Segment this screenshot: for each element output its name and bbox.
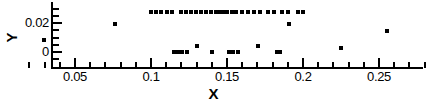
data-point [385,29,389,33]
data-point [234,10,238,14]
data-point [339,46,343,50]
data-point [210,50,214,54]
x-tick-minor [44,62,46,68]
data-point [252,10,256,14]
x-tick-major [226,58,228,68]
x-tick-minor [363,62,365,68]
y-tick-label: 0.02 [25,16,49,29]
x-tick-minor [165,62,167,68]
data-point [230,10,234,14]
x-tick-major [74,58,76,68]
data-point [179,10,183,14]
x-tick-minor [28,62,30,68]
data-point [227,50,231,54]
y-tick-label: 0 [42,45,49,58]
data-point [165,10,169,14]
y-tick-minor [53,58,59,60]
data-point [189,10,193,14]
y-tick-minor [53,29,59,31]
data-point [258,10,262,14]
data-point [185,50,189,54]
x-axis-title: X [0,86,427,101]
data-point [287,22,291,26]
data-point [180,50,184,54]
data-point [286,10,290,14]
x-tick-minor [348,62,350,68]
data-point [42,38,46,42]
data-point [194,10,198,14]
y-tick-minor [53,15,59,17]
scatter-chart: 00.02 Y X 0.050.10.150.20.25 [0,0,427,106]
data-point [154,10,158,14]
x-tick-minor [424,62,426,68]
data-point [296,10,300,14]
x-tick-label: 0.1 [142,70,159,83]
x-tick-minor [89,62,91,68]
x-tick-minor [196,62,198,68]
x-tick-major [302,58,304,68]
x-tick-minor [408,62,410,68]
x-tick-minor [180,62,182,68]
y-tick-major [53,51,62,53]
x-tick-minor [393,62,395,68]
x-tick-minor [317,62,319,68]
x-tick-minor [59,62,61,68]
data-point [236,50,240,54]
x-tick-label: 0.2 [294,70,311,83]
data-point [301,10,305,14]
data-point [149,10,153,14]
x-tick-minor [272,62,274,68]
x-tick-minor [287,62,289,68]
data-point [256,44,260,48]
x-tick-label: 0.15 [215,70,239,83]
data-point [204,10,208,14]
data-point [266,10,270,14]
x-tick-major [378,58,380,68]
x-tick-minor [120,62,122,68]
data-point [272,10,276,14]
data-point [278,50,282,54]
data-point [240,10,244,14]
data-point [159,10,163,14]
y-tick-minor [53,8,59,10]
x-tick-minor [211,62,213,68]
data-point [184,10,188,14]
y-axis-title: Y [4,32,19,42]
data-point [246,10,250,14]
data-point [225,10,229,14]
data-point [231,50,235,54]
data-point [209,10,213,14]
x-tick-minor [332,62,334,68]
x-tick-minor [135,62,137,68]
x-tick-label: 0.25 [367,70,391,83]
x-tick-minor [241,62,243,68]
x-tick-major [150,58,152,68]
x-tick-minor [256,62,258,68]
data-point [170,10,174,14]
x-tick-minor [104,62,106,68]
y-tick-major [53,22,62,24]
y-tick-minor [53,44,59,46]
data-point [113,22,117,26]
y-tick-minor [53,37,59,39]
data-point [176,50,180,54]
data-point [199,10,203,14]
data-point [280,10,284,14]
x-tick-label: 0.05 [63,70,87,83]
data-point [195,44,199,48]
